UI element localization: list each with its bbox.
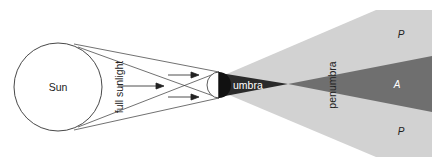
moon [207,72,231,98]
penumbra-bottom-label: P [398,126,405,137]
penumbra-top-label: P [398,29,405,40]
sun-label: Sun [49,81,68,93]
full-sunlight-label: full sunlight [113,61,125,114]
penumbra-label: penumbra [326,61,338,108]
umbra-label: umbra [233,79,263,91]
antumbra-label: A [393,79,401,90]
eclipse-diagram: Sun full sunlight umbra penumbra P A P [0,0,444,165]
